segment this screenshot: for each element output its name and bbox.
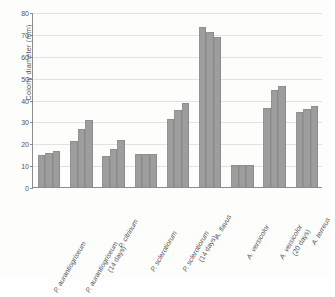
y-tick-mark [30,188,33,189]
bar [70,141,78,187]
bar-group [70,13,93,187]
bar-group [199,13,222,187]
x-tick-label: P. aurantiogriseum [81,190,117,244]
bar [38,155,46,187]
y-tick-label: 60 [21,53,29,60]
bar [199,27,207,187]
x-label-species: A. versicolor [245,223,270,260]
bar [142,154,150,187]
x-axis-labels: P. aurantiogriseumP. aurantiogriseum(14 … [32,190,322,276]
bar [78,129,86,187]
bar [296,112,304,187]
bar [167,119,175,187]
bar [214,37,222,187]
bar-group [167,13,190,187]
bar [206,32,214,187]
bar [53,151,61,187]
bar [246,165,254,187]
bar [110,149,118,187]
x-tick-label: A. versicolor [265,190,292,228]
bar [174,110,182,187]
y-tick-label: 20 [21,141,29,148]
bar [135,154,143,187]
y-tick-label: 40 [21,97,29,104]
bar [303,109,311,187]
bar [150,154,158,187]
x-label-species: P. aurantiogriseum [52,240,87,294]
bar-group [296,13,319,187]
bar-group [231,13,254,187]
bar-group [102,13,125,187]
y-tick-label: 10 [21,163,29,170]
y-tick-label: 30 [21,119,29,126]
bar-group [38,13,61,187]
bar [271,90,279,187]
y-tick-label: 80 [21,10,29,17]
bar [85,120,93,187]
bar-group [135,13,158,187]
bar [117,140,125,187]
bar [311,106,319,187]
bar [239,165,247,187]
bar [278,86,286,187]
bar [263,108,271,187]
y-tick-label: 50 [21,75,29,82]
plot-area: 01020304050607080 [32,13,322,188]
bar [231,165,239,187]
bar [45,153,53,187]
bar-series [33,13,322,187]
y-tick-label: 0 [25,185,29,192]
bar [182,103,190,187]
y-tick-label: 70 [21,31,29,38]
x-label-species: P. sclerotiorum [149,230,178,273]
x-tick-label: P. sclerotiorum [172,190,202,234]
bar [102,156,110,187]
bar-group [263,13,286,187]
